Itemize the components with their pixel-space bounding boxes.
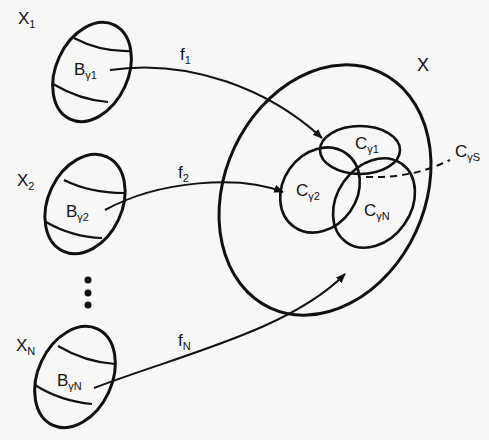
label-target-set-x: X <box>417 56 429 74</box>
label-block-b-y1: Bγ1 <box>74 61 97 81</box>
map-f1-arrow <box>110 67 322 138</box>
label-region-c-y1: Cγ1 <box>355 135 379 155</box>
label-intersection-c-ys: CγS <box>455 143 480 163</box>
label-set-x2: X2 <box>17 172 34 192</box>
label-region-c-yn: CγN <box>364 202 390 222</box>
label-region-c-y2: Cγ2 <box>296 182 320 202</box>
label-block-b-y2: Bγ2 <box>66 203 89 223</box>
label-map-f1: f1 <box>180 46 191 66</box>
label-map-fn: fN <box>178 332 191 352</box>
map-fn-arrow <box>94 274 345 388</box>
label-set-x1: X1 <box>18 10 35 30</box>
ellipsis-dots <box>85 277 92 309</box>
target-set-x <box>179 30 470 350</box>
map-f2-arrow <box>105 182 283 210</box>
diagram-canvas: X1 Bγ1 f1 X2 Bγ2 f2 XN BγN fN X Cγ1 Cγ2 … <box>0 0 489 440</box>
label-block-b-yn: BγN <box>57 372 82 392</box>
label-map-f2: f2 <box>178 164 189 184</box>
label-set-xn: XN <box>16 337 35 357</box>
